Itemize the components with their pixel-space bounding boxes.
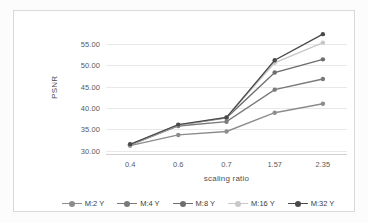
series-line bbox=[130, 34, 323, 144]
y-tick-label: 55.00 bbox=[81, 39, 100, 48]
data-point bbox=[176, 133, 180, 137]
x-tick-label: 0.6 bbox=[173, 160, 183, 169]
data-point bbox=[273, 70, 277, 74]
y-tick-label: 35.00 bbox=[81, 125, 100, 134]
data-point bbox=[273, 111, 277, 115]
legend-label: M:8 Y bbox=[196, 199, 215, 208]
legend-label: M:4 Y bbox=[140, 199, 159, 208]
data-point bbox=[321, 40, 325, 44]
series-lines bbox=[106, 29, 347, 155]
legend-label: M:2 Y bbox=[85, 199, 104, 208]
y-tick-label: 30.00 bbox=[81, 146, 100, 155]
series-line bbox=[130, 79, 323, 145]
x-tick-label: 1.57 bbox=[267, 160, 282, 169]
y-tick-label: 45.00 bbox=[81, 82, 100, 91]
y-tick-label: 50.00 bbox=[81, 61, 100, 70]
legend-item[interactable]: M:8 Y bbox=[173, 199, 215, 208]
x-tick-label: 2.35 bbox=[316, 160, 331, 169]
legend-marker-icon bbox=[62, 200, 82, 208]
legend-label: M:16 Y bbox=[251, 199, 275, 208]
legend-label: M:32 Y bbox=[311, 199, 335, 208]
legend-item[interactable]: M:4 Y bbox=[117, 199, 159, 208]
x-tick-label: 0.4 bbox=[125, 160, 135, 169]
legend-marker-icon bbox=[288, 200, 308, 208]
legend-marker-icon bbox=[117, 200, 137, 208]
data-point bbox=[321, 32, 325, 36]
legend-item[interactable]: M:2 Y bbox=[62, 199, 104, 208]
data-point bbox=[224, 129, 228, 133]
series-line bbox=[130, 104, 323, 146]
legend-marker-icon bbox=[173, 200, 193, 208]
data-point bbox=[128, 142, 132, 146]
data-point bbox=[176, 122, 180, 126]
legend-item[interactable]: M:16 Y bbox=[228, 199, 275, 208]
data-point bbox=[321, 57, 325, 61]
chart-screenshot: PSNR 30.0035.0040.0045.0050.0055.00 0.40… bbox=[0, 0, 368, 223]
plot-area: 30.0035.0040.0045.0050.0055.00 0.40.60.7… bbox=[106, 29, 347, 155]
data-point bbox=[224, 119, 228, 123]
data-point bbox=[321, 77, 325, 81]
x-axis-label: scaling ratio bbox=[106, 174, 347, 183]
chart-frame: PSNR 30.0035.0040.0045.0050.0055.00 0.40… bbox=[13, 10, 355, 212]
data-point bbox=[273, 58, 277, 62]
legend-item[interactable]: M:32 Y bbox=[288, 199, 335, 208]
chart-legend: M:2 YM:4 YM:8 YM:16 YM:32 Y bbox=[27, 199, 368, 208]
data-point bbox=[321, 102, 325, 106]
data-point bbox=[273, 87, 277, 91]
legend-marker-icon bbox=[228, 200, 248, 208]
y-axis-label: PSNR bbox=[50, 76, 59, 99]
data-point bbox=[224, 115, 228, 119]
y-tick-label: 40.00 bbox=[81, 104, 100, 113]
x-tick-label: 0.7 bbox=[221, 160, 231, 169]
